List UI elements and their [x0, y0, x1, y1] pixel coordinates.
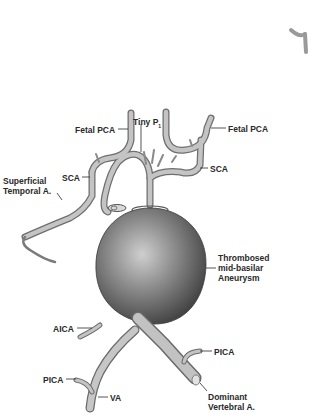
vessel-drawing — [0, 0, 309, 415]
label-pica-left: PICA — [43, 375, 63, 385]
label-dominant-va: Dominant Vertebral A. — [208, 392, 255, 412]
label-aneurysm-line2: mid-basilar — [218, 263, 269, 273]
label-superficial-temporal-line1: Superficial — [3, 176, 51, 186]
label-aneurysm-line1: Thrombosed — [218, 253, 269, 263]
label-tiny-p1-sub: 1 — [158, 123, 161, 129]
label-tiny-p1-text: Tiny P — [133, 117, 158, 127]
label-fetal-pca-right: Fetal PCA — [228, 124, 268, 134]
label-dominant-va-line1: Dominant — [208, 392, 255, 402]
label-sca-right: SCA — [210, 164, 228, 174]
thrombosed-aneurysm-sphere — [96, 208, 206, 324]
label-pica-right: PICA — [214, 347, 234, 357]
label-tiny-p1: Tiny P1 — [133, 117, 161, 131]
aneurysm-illustration: Fetal PCA Tiny P1 Fetal PCA SCA SCA Supe… — [0, 0, 309, 415]
lower-vessels — [76, 318, 200, 408]
label-aneurysm-line3: Aneurysm — [218, 273, 269, 283]
corner-vessel-fragment — [291, 30, 306, 52]
label-va: VA — [110, 393, 121, 403]
label-superficial-temporal-line2: Temporal A. — [3, 186, 51, 196]
label-aica: AICA — [53, 324, 74, 334]
label-superficial-temporal: Superficial Temporal A. — [3, 176, 51, 196]
label-dominant-va-line2: Vertebral A. — [208, 402, 255, 412]
label-aneurysm: Thrombosed mid-basilar Aneurysm — [218, 253, 269, 283]
label-sca-left: SCA — [62, 173, 80, 183]
label-fetal-pca-left: Fetal PCA — [75, 125, 115, 135]
